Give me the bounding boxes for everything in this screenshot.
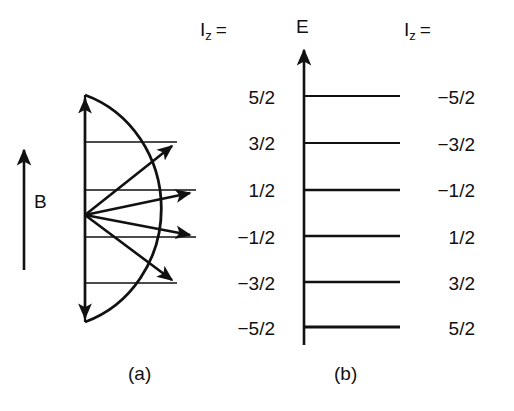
panel-b-iz-header: Iz=	[404, 20, 431, 42]
panel-a-value-4: −3/2	[215, 274, 275, 293]
panel-b-value-4: 3/2	[415, 274, 475, 293]
panel-a-value-3: −1/2	[215, 228, 275, 247]
figure-root: B Iz= 5/2 3/2 1/2 −1/2 −3/2 −5/2 (a) E I…	[0, 0, 514, 411]
panel-b-value-3: 1/2	[415, 228, 475, 247]
panel-a-caption: (a)	[128, 363, 151, 385]
panel-a-value-1: 3/2	[215, 134, 275, 153]
panel-a-iz-subscript: z	[205, 28, 212, 43]
panel-a-iz-equals: =	[216, 19, 227, 40]
panel-b-drawing	[304, 50, 400, 345]
panel-a-value-2: 1/2	[215, 181, 275, 200]
panel-a-value-5: −5/2	[215, 319, 275, 338]
magnetic-field-label: B	[34, 192, 47, 211]
panel-b-value-1: −3/2	[415, 135, 475, 154]
panel-b-iz-subscript: z	[409, 28, 416, 43]
panel-b-iz-equals: =	[420, 19, 431, 40]
panel-b-value-2: −1/2	[415, 181, 475, 200]
panel-b-caption: (b)	[334, 363, 357, 385]
vector-model-arc	[85, 95, 161, 322]
panel-b-value-0: −5/2	[415, 88, 475, 107]
panel-a-drawing	[24, 95, 196, 322]
spin-vector-minus-1-2	[85, 215, 190, 235]
figure-drawing	[0, 0, 514, 411]
panel-a-value-0: 5/2	[215, 88, 275, 107]
energy-axis-label: E	[296, 17, 309, 36]
panel-b-value-5: 5/2	[415, 319, 475, 338]
panel-a-iz-header: Iz=	[200, 20, 227, 42]
